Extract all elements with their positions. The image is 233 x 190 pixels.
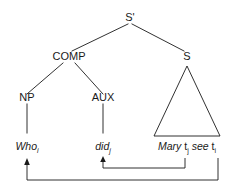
- leaf-who-word: Who: [15, 140, 37, 152]
- node-comp: COMP: [53, 50, 86, 62]
- branches-group: [27, 24, 184, 133]
- node-np: NP: [19, 91, 34, 103]
- clause-verb: see: [192, 140, 209, 152]
- movement-arrow-wh: [24, 158, 218, 180]
- leaf-did-word: did: [95, 140, 110, 152]
- branch-comp-aux: [75, 63, 103, 94]
- node-aux: AUX: [92, 91, 115, 103]
- node-sbar: S': [125, 11, 134, 23]
- tree-diagram-svg: S' COMP S NP AUX Whoi didj Mary tj see t…: [0, 0, 233, 190]
- branch-comp-np: [27, 63, 63, 94]
- leaf-did: didj: [95, 140, 111, 155]
- syntax-tree-figure: S' COMP S NP AUX Whoi didj Mary tj see t…: [0, 0, 233, 190]
- branch-sbar-s: [132, 24, 184, 51]
- wh-movement-arrowhead: [24, 158, 30, 165]
- wh-movement-path: [27, 158, 218, 180]
- aux-movement-arrowhead: [100, 156, 106, 162]
- clause-triangle: [154, 66, 220, 136]
- leaf-who: Whoi: [15, 140, 39, 154]
- aux-movement-path: [103, 158, 185, 168]
- movement-arrow-aux: [100, 156, 185, 168]
- leaf-did-subscript: j: [108, 147, 111, 155]
- leaf-who-subscript: i: [37, 147, 39, 154]
- clause-trace2-subscript: i: [214, 147, 216, 154]
- node-s: S: [183, 50, 190, 62]
- branch-sbar-comp: [72, 24, 128, 51]
- leaf-clause: Mary tj see ti: [158, 140, 216, 155]
- clause-subject: Mary: [158, 140, 182, 152]
